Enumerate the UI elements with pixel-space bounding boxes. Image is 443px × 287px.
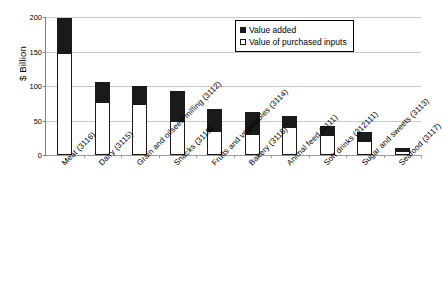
chart-legend: Value added Value of purchased inputs: [235, 20, 354, 52]
x-tick-mark: [159, 155, 160, 158]
y-tick-label: 50: [34, 116, 42, 125]
y-tick-label: 150: [29, 47, 42, 56]
bar-group: [132, 85, 147, 155]
y-tick-mark: [43, 121, 46, 122]
y-tick-label: 100: [29, 82, 42, 91]
x-tick-mark: [346, 155, 347, 158]
gridline: [46, 17, 421, 18]
legend-item-value-added: Value added: [240, 24, 347, 36]
legend-item-purchased-inputs: Value of purchased inputs: [240, 36, 347, 48]
x-tick-mark: [271, 155, 272, 158]
bar-segment-purchased-inputs: [95, 102, 110, 155]
y-tick-label: 200: [29, 13, 42, 22]
bar-segment-purchased-inputs: [132, 104, 147, 155]
bar-segment-purchased-inputs: [57, 53, 72, 155]
legend-label: Value of purchased inputs: [249, 37, 347, 47]
y-tick-mark: [43, 86, 46, 87]
bar-segment-value-added: [57, 18, 72, 54]
y-axis-title: $ Billion: [17, 29, 28, 99]
bar-group: [95, 80, 110, 155]
y-tick-mark: [43, 52, 46, 53]
y-tick-label: 0: [38, 151, 42, 160]
bar-segment-value-added: [132, 86, 147, 105]
plot-area: 050100150200: [45, 17, 421, 155]
gridline: [46, 52, 421, 53]
bar-group: [57, 17, 72, 155]
x-tick-mark: [234, 155, 235, 158]
x-tick-mark: [121, 155, 122, 158]
y-tick-mark: [43, 155, 46, 156]
y-tick-mark: [43, 17, 46, 18]
filled-square-icon: [240, 27, 246, 33]
bar-segment-value-added: [95, 82, 110, 103]
legend-label: Value added: [249, 25, 296, 35]
x-tick-mark: [84, 155, 85, 158]
x-tick-mark: [421, 155, 422, 158]
hollow-square-icon: [240, 39, 246, 45]
x-tick-mark: [384, 155, 385, 158]
x-tick-mark: [196, 155, 197, 158]
x-tick-mark: [309, 155, 310, 158]
